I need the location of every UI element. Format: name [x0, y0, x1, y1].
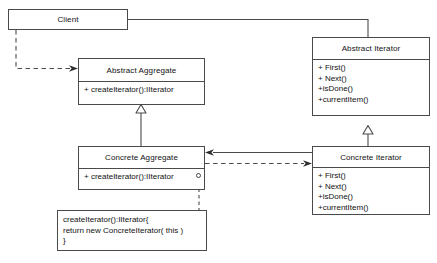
class-box-concrete-aggregate[interactable]: Concrete Aggregate + createIterator():II… [78, 146, 205, 190]
note-anchor-dot [196, 173, 201, 178]
operations-concrete-aggregate: + createIterator():IIterator [79, 168, 204, 190]
edge-concrete-iterator-to-concrete-aggregate [205, 149, 312, 155]
class-box-concrete-iterator[interactable]: Concrete Iterator + First() + Next() +is… [312, 146, 430, 215]
operation-item: +isDone() [318, 192, 429, 203]
edge-client-to-abstract-aggregate [16, 30, 78, 72]
operation-item: +currentItem() [318, 95, 429, 106]
edge-concrete-iterator-generalization [363, 126, 373, 147]
operation-item: + First() [318, 171, 429, 182]
class-title-client: Client [9, 10, 127, 29]
operations-abstract-aggregate: + createIterator():IIterator [79, 81, 204, 105]
operations-concrete-iterator: + First() + Next() +isDone() +currentIte… [313, 167, 429, 215]
class-box-abstract-iterator[interactable]: Abstract Iterator + First() + Next() +is… [312, 37, 430, 116]
class-title-concrete-aggregate: Concrete Aggregate [79, 147, 204, 168]
operation-item: + Next() [318, 74, 429, 85]
operation-item: + createIterator():IIterator [84, 85, 204, 96]
class-box-client[interactable]: Client [8, 9, 128, 30]
note-line: } [63, 236, 201, 247]
edge-concrete-aggregate-generalization [136, 105, 146, 147]
operation-item: + createIterator():IIterator [84, 172, 204, 183]
class-title-concrete-iterator: Concrete Iterator [313, 147, 429, 167]
uml-class-diagram: Client Abstract Aggregate + createIterat… [0, 0, 437, 263]
note-line: createIterator():IIterator{ [63, 215, 201, 226]
edge-concrete-aggregate-to-concrete-iterator [205, 160, 312, 166]
class-title-abstract-aggregate: Abstract Aggregate [79, 59, 204, 81]
operation-item: + Next() [318, 182, 429, 193]
operation-item: +isDone() [318, 84, 429, 95]
class-title-abstract-iterator: Abstract Iterator [313, 38, 429, 59]
note-box[interactable]: createIterator():IIterator{ return new C… [57, 210, 207, 251]
operation-item: + First() [318, 63, 429, 74]
class-box-abstract-aggregate[interactable]: Abstract Aggregate + createIterator():II… [78, 58, 205, 105]
operation-item: +currentItem() [318, 203, 429, 214]
note-line: return new ConcreteIterator( this ) [63, 226, 201, 237]
edge-client-to-abstract-iterator [128, 20, 368, 38]
operations-abstract-iterator: + First() + Next() +isDone() +currentIte… [313, 59, 429, 116]
